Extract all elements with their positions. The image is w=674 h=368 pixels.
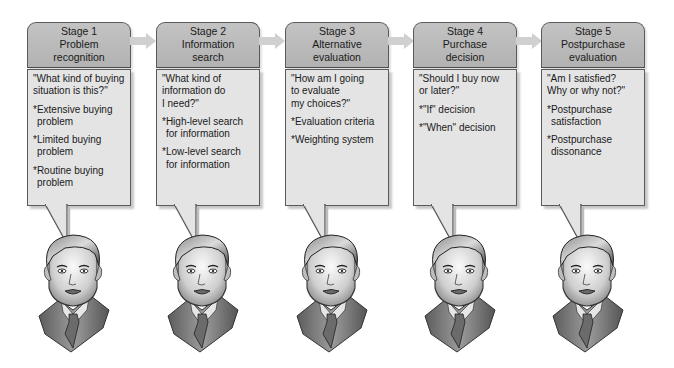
stage-header: Stage 1 Problem recognition — [27, 22, 131, 68]
bullet-item: *Postpurchase dissonance — [547, 134, 640, 159]
thinking-man-face-icon — [160, 230, 244, 354]
stage-4-column: Stage 4 Purchase decision "Should I buy … — [413, 22, 517, 352]
thinking-man-face-icon — [545, 230, 629, 354]
stage-title-line-1: Information — [157, 38, 259, 51]
right-arrow-icon — [388, 33, 414, 49]
stage-title-line-1: Postpurchase — [542, 38, 644, 51]
thinking-man-face-icon — [289, 230, 373, 354]
stage-title-line-2: recognition — [28, 51, 130, 64]
stage-title-line-2: search — [157, 51, 259, 64]
speech-bubble: "How am I going to evaluate my choices?"… — [285, 69, 389, 206]
thinking-man-face-icon — [31, 230, 115, 354]
stage-number: Stage 2 — [157, 25, 259, 38]
stage-number: Stage 3 — [286, 25, 388, 38]
speech-bubble: "What kind of information do I need?" *H… — [156, 69, 260, 206]
stage-title-line-1: Alternative — [286, 38, 388, 51]
stage-title-line-1: Problem — [28, 38, 130, 51]
bullet-list: *"If" decision*"When" decision — [419, 104, 512, 135]
bullet-item: *Postpurchase satisfaction — [547, 104, 640, 129]
bullet-item: *Weighting system — [291, 134, 384, 146]
bullet-list: *Extensive buying problem*Limited buying… — [33, 104, 126, 190]
bullet-item: *Evaluation criteria — [291, 116, 384, 128]
stage-2-column: Stage 2 Information search "What kind of… — [156, 22, 260, 352]
consumer-question: "What kind of information do I need?" — [162, 73, 255, 110]
stage-title-line-2: evaluation — [542, 51, 644, 64]
stage-3-column: Stage 3 Alternative evaluation "How am I… — [285, 22, 389, 352]
stage-header: Stage 2 Information search — [156, 22, 260, 68]
stage-title-line-1: Purchase — [414, 38, 516, 51]
bullet-item: *Routine buying problem — [33, 165, 126, 190]
bullet-item: *Low-level search for information — [162, 146, 255, 171]
bullet-list: *Postpurchase satisfaction*Postpurchase … — [547, 104, 640, 159]
speech-bubble: "Should I buy now or later?" *"If" decis… — [413, 69, 517, 206]
right-arrow-icon — [516, 33, 542, 49]
bullet-item: *High-level search for information — [162, 116, 255, 141]
stage-5-column: Stage 5 Postpurchase evaluation "Am I sa… — [541, 22, 645, 352]
stage-header: Stage 4 Purchase decision — [413, 22, 517, 68]
speech-bubble: "Am I satisfied? Why or why not?" *Postp… — [541, 69, 645, 206]
stage-header: Stage 3 Alternative evaluation — [285, 22, 389, 68]
stage-number: Stage 1 — [28, 25, 130, 38]
stage-1-column: Stage 1 Problem recognition "What kind o… — [27, 22, 131, 352]
consumer-question: "Am I satisfied? Why or why not?" — [547, 73, 640, 98]
stage-number: Stage 5 — [542, 25, 644, 38]
consumer-question: "How am I going to evaluate my choices?" — [291, 73, 384, 110]
right-arrow-icon — [130, 33, 156, 49]
stage-number: Stage 4 — [414, 25, 516, 38]
bullet-item: *"If" decision — [419, 104, 512, 116]
consumer-question: "What kind of buying situation is this?" — [33, 73, 126, 98]
consumer-question: "Should I buy now or later?" — [419, 73, 512, 98]
bullet-item: *Extensive buying problem — [33, 104, 126, 129]
bullet-list: *High-level search for information*Low-l… — [162, 116, 255, 171]
bullet-item: *Limited buying problem — [33, 134, 126, 159]
stage-header: Stage 5 Postpurchase evaluation — [541, 22, 645, 68]
bullet-item: *"When" decision — [419, 122, 512, 134]
stage-title-line-2: decision — [414, 51, 516, 64]
right-arrow-icon — [259, 33, 285, 49]
speech-bubble: "What kind of buying situation is this?"… — [27, 69, 131, 206]
stage-title-line-2: evaluation — [286, 51, 388, 64]
thinking-man-face-icon — [417, 230, 501, 354]
bullet-list: *Evaluation criteria*Weighting system — [291, 116, 384, 147]
